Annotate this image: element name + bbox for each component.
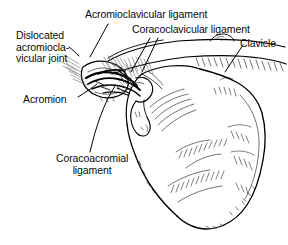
label-acromioclavicular-ligament: Acromioclavicular ligament: [85, 9, 207, 21]
label-coracoacromial-ligament: Coracoacromial ligament: [56, 153, 128, 176]
scapula-body: [126, 66, 265, 229]
leader-acromioclavicular: [90, 24, 108, 57]
figure-canvas: Dislocated acromiocla- vicular joint Acr…: [0, 0, 288, 245]
label-coracoacromial-line1: Coracoacromial: [56, 153, 128, 165]
label-clavicle: Clavicle: [240, 38, 276, 50]
acromion-process: [81, 61, 128, 102]
label-acromion: Acromion: [23, 94, 67, 106]
label-dislocated-acromioclavicular-joint: Dislocated acromiocla- vicular joint: [16, 30, 69, 65]
label-dislocated-line3: vicular joint: [16, 53, 69, 65]
leader-coracoacromial: [90, 86, 115, 152]
label-dislocated-line1: Dislocated: [16, 30, 69, 42]
label-coracoclavicular-ligament: Coracoclavicular ligament: [132, 24, 250, 36]
leader-acromion: [78, 84, 97, 97]
label-coracoacromial-line2: ligament: [56, 165, 128, 177]
leader-dislocated-joint: [69, 47, 79, 56]
